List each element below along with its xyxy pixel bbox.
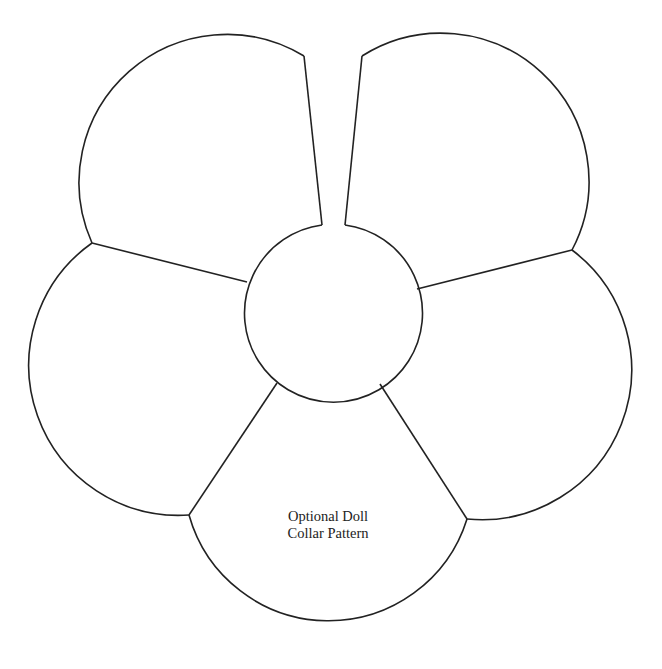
pattern-label-line-2: Collar Pattern — [228, 525, 428, 542]
spoke-right — [417, 250, 572, 289]
spoke-left — [92, 243, 247, 282]
spoke-bottom-left — [189, 383, 277, 515]
pattern-label-line-1: Optional Doll — [228, 508, 428, 525]
top-right-petal-outline — [362, 33, 589, 250]
pattern-label: Optional Doll Collar Pattern — [228, 508, 428, 542]
slit-right-edge — [345, 56, 362, 225]
collar-pattern-drawing — [0, 0, 662, 669]
left-petal-outline — [29, 243, 189, 515]
right-petal-outline — [467, 250, 632, 520]
top-left-petal-outline — [79, 34, 304, 243]
slit-left-edge — [304, 56, 322, 225]
spoke-bottom-right — [380, 384, 467, 519]
neck-opening-circle — [245, 225, 423, 402]
collar-pattern-diagram: Optional Doll Collar Pattern — [0, 0, 662, 669]
